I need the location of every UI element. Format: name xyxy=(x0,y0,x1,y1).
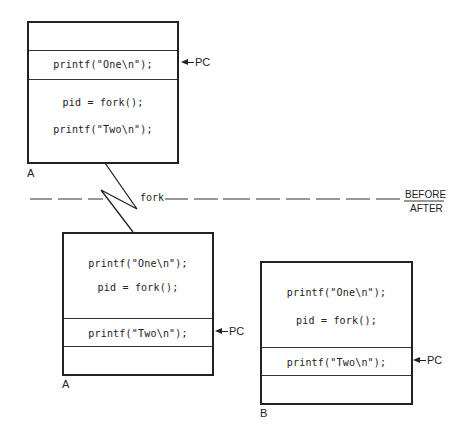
process-a-before-box: printf("One\n"); pid = fork(); printf("T… xyxy=(27,21,179,164)
pc-label: PC xyxy=(195,56,210,68)
row-divider xyxy=(262,347,411,348)
process-a-after-box: printf("One\n"); pid = fork(); printf("T… xyxy=(62,232,214,376)
code-line-printf-one: printf("One\n"); xyxy=(29,59,177,70)
row-divider xyxy=(64,346,212,347)
fork-label: fork xyxy=(140,192,164,203)
arrow-left-icon xyxy=(215,328,222,334)
code-line-printf-two: printf("Two\n"); xyxy=(262,357,411,368)
pc-pointer-after-a: PC xyxy=(215,325,244,337)
row-divider xyxy=(29,79,177,80)
process-a-after-label: A xyxy=(62,378,69,390)
code-line-fork: pid = fork(); xyxy=(29,97,177,108)
process-a-before-label: A xyxy=(27,167,34,179)
process-b-after-box: printf("One\n"); pid = fork(); printf("T… xyxy=(260,261,413,405)
row-divider xyxy=(64,318,212,319)
row-divider xyxy=(262,375,411,376)
fork-zigzag xyxy=(101,163,137,232)
after-label: AFTER xyxy=(410,203,443,214)
code-line-fork: pid = fork(); xyxy=(64,282,212,293)
arrow-left-icon xyxy=(181,59,188,65)
code-line-printf-one: printf("One\n"); xyxy=(64,258,212,269)
row-divider xyxy=(29,50,177,51)
pc-pointer-after-b: PC xyxy=(413,354,442,366)
code-line-fork: pid = fork(); xyxy=(262,315,411,326)
pc-label: PC xyxy=(229,325,244,337)
code-line-printf-two: printf("Two\n"); xyxy=(29,124,177,135)
arrow-left-icon xyxy=(413,357,420,363)
code-line-printf-two: printf("Two\n"); xyxy=(64,328,212,339)
process-b-after-label: B xyxy=(260,407,267,419)
before-label: BEFORE xyxy=(405,189,446,200)
pc-pointer-before: PC xyxy=(181,56,210,68)
pc-label: PC xyxy=(427,354,442,366)
code-line-printf-one: printf("One\n"); xyxy=(262,287,411,298)
